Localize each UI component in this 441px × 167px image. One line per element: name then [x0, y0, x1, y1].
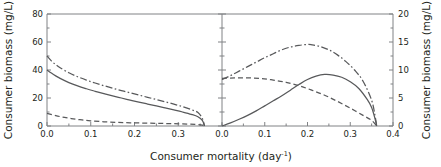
y-tick-label: 40: [32, 65, 43, 75]
y-tick-label: 20: [32, 93, 43, 103]
series-line-dash-dot: [222, 44, 377, 126]
x-tick-label: 0.2: [301, 129, 315, 139]
x-tick-label: 0.0: [215, 129, 229, 139]
x-tick-label: 0.3: [171, 129, 185, 139]
y-axis-title-right: Consumer biomass (mg/L): [420, 1, 432, 139]
series-line-dashed: [47, 113, 205, 126]
x-tick-label: 0.3: [343, 129, 357, 139]
x-tick-label: 0.1: [258, 129, 272, 139]
series-line-solid: [47, 70, 205, 126]
series-line-solid: [222, 74, 377, 126]
y-tick-label: 15: [398, 37, 409, 47]
figure-container: 0204060800.00.10.20.3 051015200.00.10.20…: [0, 0, 441, 167]
y-axis-title-left: Consumer biomass (mg/L): [2, 1, 14, 139]
y-tick-label: 80: [32, 9, 43, 19]
x-tick-label: 0.0: [40, 129, 54, 139]
y-tick-label: 60: [32, 37, 43, 47]
x-tick-label: 0.4: [386, 129, 400, 139]
right-panel: 051015200.00.10.20.30.4: [215, 9, 409, 139]
x-axis-title: Consumer mortality (day-1): [150, 150, 292, 162]
left-panel: 0204060800.00.10.20.3: [32, 9, 222, 139]
series-line-dash-dot: [47, 56, 205, 126]
x-tick-label: 0.2: [128, 129, 142, 139]
y-tick-label: 20: [398, 9, 409, 19]
x-tick-label: 0.1: [84, 129, 98, 139]
chart-svg: 0204060800.00.10.20.3 051015200.00.10.20…: [0, 0, 441, 167]
y-tick-label: 10: [398, 65, 409, 75]
y-tick-label: 5: [398, 93, 403, 103]
